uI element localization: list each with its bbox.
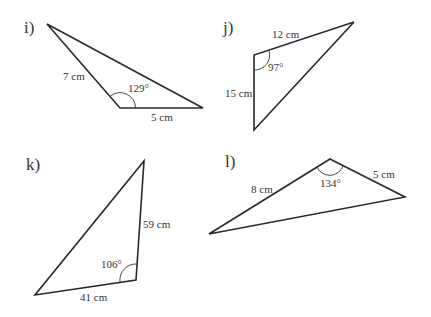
part-label-j: j) <box>222 18 233 37</box>
angle-label-i: 129° <box>128 82 149 94</box>
side-label-i-7cm: 7 cm <box>63 70 85 82</box>
part-label-k: k) <box>26 155 40 174</box>
triangle-i-shape <box>47 24 203 108</box>
side-label-l-8cm: 8 cm <box>251 183 273 195</box>
side-label-l-5cm: 5 cm <box>373 168 395 180</box>
side-label-k-41cm: 41 cm <box>80 291 108 303</box>
angle-arc-k <box>120 264 137 282</box>
angle-label-k: 106° <box>101 258 122 270</box>
triangle-k: k) 59 cm 106° 41 cm <box>26 155 171 303</box>
side-label-j-12cm: 12 cm <box>272 28 300 40</box>
part-label-l: l) <box>225 152 235 171</box>
side-label-k-59cm: 59 cm <box>143 218 171 230</box>
angle-label-l: 134° <box>320 177 341 189</box>
triangle-k-shape <box>35 161 144 295</box>
triangle-l: l) 8 cm 134° 5 cm <box>209 152 405 234</box>
side-label-j-15cm: 15 cm <box>225 87 253 99</box>
part-label-i: i) <box>24 18 34 37</box>
triangle-i: i) 7 cm 129° 5 cm <box>24 18 203 123</box>
triangle-j: j) 12 cm 97° 15 cm <box>222 18 354 130</box>
angle-label-j: 97° <box>268 61 283 73</box>
angle-arc-l <box>317 166 343 175</box>
triangles-diagram: i) 7 cm 129° 5 cm j) 12 cm 97° 15 cm k) … <box>0 0 431 317</box>
triangle-j-shape <box>254 22 354 130</box>
side-label-i-5cm: 5 cm <box>151 111 173 123</box>
